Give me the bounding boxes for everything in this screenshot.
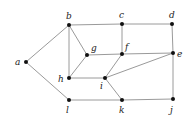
node-label-b: b: [66, 11, 72, 21]
edge-i-k: [105, 78, 122, 100]
edge-f-e: [122, 53, 173, 54]
edge-i-e: [105, 53, 173, 78]
node-l: [67, 98, 71, 102]
graph-diagram: abcdgfehilkj: [0, 0, 192, 120]
node-j: [171, 97, 175, 101]
edge-a-b: [26, 25, 69, 62]
node-g: [85, 53, 89, 57]
node-a: [24, 60, 28, 64]
edge-g-h: [69, 55, 87, 78]
node-e: [171, 51, 175, 55]
node-h: [67, 76, 71, 80]
node-label-a: a: [15, 57, 20, 67]
node-label-i: i: [100, 81, 103, 91]
node-label-k: k: [119, 105, 124, 115]
node-f: [120, 52, 124, 56]
node-i: [103, 76, 107, 80]
node-label-l: l: [66, 105, 69, 115]
node-label-d: d: [169, 10, 175, 20]
node-d: [170, 22, 174, 26]
edge-k-j: [122, 99, 173, 100]
node-label-g: g: [91, 43, 97, 53]
node-label-c: c: [119, 10, 124, 20]
edge-g-f: [87, 54, 122, 55]
node-label-j: j: [168, 105, 173, 115]
node-c: [120, 22, 124, 26]
node-label-e: e: [177, 49, 182, 59]
edge-b-c: [69, 24, 122, 25]
node-k: [120, 98, 124, 102]
edge-b-g: [69, 25, 87, 55]
node-label-f: f: [124, 42, 130, 52]
node-b: [67, 23, 71, 27]
node-label-h: h: [58, 74, 64, 84]
edge-d-e: [172, 24, 173, 53]
